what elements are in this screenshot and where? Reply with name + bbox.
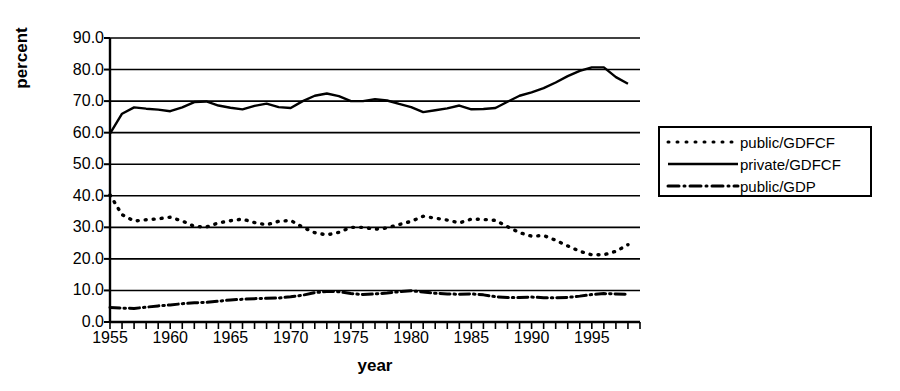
series-line <box>110 291 628 309</box>
legend-label: private/GDFCF <box>740 157 841 172</box>
legend-item-public-gdp: public/GDP <box>660 175 870 197</box>
legend-swatch-solid <box>666 154 740 174</box>
legend-item-private-gdfcf: private/GDFCF <box>660 153 870 175</box>
gridlines <box>110 38 640 290</box>
legend-swatch-dotted <box>666 132 740 152</box>
chart-legend: public/GDFCF private/GDFCF public/GDP <box>658 126 872 197</box>
series-line <box>110 195 628 255</box>
data-series-layer <box>110 67 628 308</box>
legend-item-public-gdfcf: public/GDFCF <box>660 131 870 153</box>
legend-label: public/GDP <box>740 179 816 194</box>
legend-swatch-dash-dot <box>666 176 740 196</box>
legend-label: public/GDFCF <box>740 135 835 150</box>
chart-figure: percent 0.010.020.030.040.050.060.070.08… <box>0 0 900 391</box>
